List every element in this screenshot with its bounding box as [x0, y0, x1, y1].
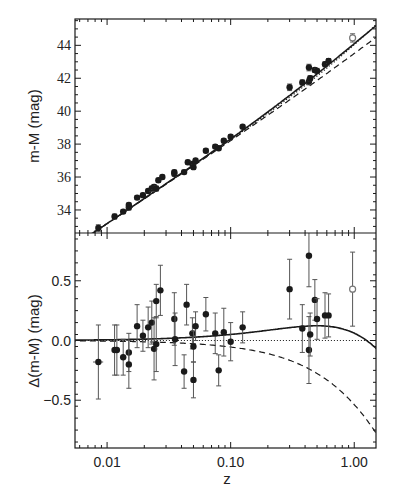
data-point — [227, 134, 233, 140]
data-point — [221, 329, 227, 335]
data-point — [134, 323, 140, 329]
data-point — [314, 68, 320, 74]
data-point — [212, 330, 218, 336]
data-point — [95, 359, 101, 365]
plot-frame — [75, 19, 376, 448]
open-data-point — [350, 35, 356, 41]
data-point — [153, 298, 159, 304]
data-point — [134, 194, 140, 200]
data-point — [239, 324, 245, 330]
data-point — [120, 208, 126, 214]
open-data-point — [350, 286, 356, 292]
y-tick-label: 0.0 — [52, 333, 72, 349]
decelerating-model-curve — [70, 341, 379, 438]
x-axis-label: z — [223, 470, 231, 487]
data-point — [299, 79, 305, 85]
data-point — [239, 124, 245, 130]
data-point — [286, 286, 292, 292]
data-point — [171, 316, 177, 322]
data-point — [153, 185, 159, 191]
data-point — [192, 157, 198, 163]
data-point — [159, 174, 165, 180]
y-tick-label: 44 — [57, 38, 71, 53]
data-point — [307, 331, 313, 337]
data-point — [140, 192, 146, 198]
data-point — [172, 336, 178, 342]
chart-svg: 343638404244−0.50.00.50.010.101.00zm-M (… — [0, 0, 396, 499]
upper-panel-hubble-diagram — [70, 22, 379, 249]
data-point — [307, 75, 313, 81]
data-point — [126, 361, 132, 367]
data-point — [183, 301, 189, 307]
data-point — [203, 147, 209, 153]
y-tick-label: 0.5 — [52, 273, 72, 289]
x-tick-label: 0.01 — [93, 454, 120, 470]
data-point — [153, 341, 159, 347]
data-point — [203, 311, 209, 317]
data-point — [181, 368, 187, 374]
data-point — [114, 347, 120, 353]
data-point — [325, 312, 331, 318]
data-point — [190, 164, 196, 170]
data-point — [215, 367, 221, 373]
data-point — [181, 169, 187, 175]
data-point — [171, 169, 177, 175]
lower-y-axis-label: Δ(m-M) (mag) — [25, 294, 42, 387]
data-point — [215, 145, 221, 151]
y-tick-label: −0.5 — [43, 392, 71, 408]
y-tick-label: 38 — [57, 137, 71, 152]
lower-panel-residuals — [70, 225, 379, 438]
data-point — [221, 138, 227, 144]
data-point — [111, 213, 117, 219]
y-tick-label: 42 — [57, 71, 71, 86]
data-point — [192, 323, 198, 329]
data-point — [140, 333, 146, 339]
x-tick-label: 0.10 — [217, 454, 244, 470]
data-point — [120, 354, 126, 360]
data-point — [286, 84, 292, 90]
data-point — [95, 225, 101, 231]
data-point — [299, 325, 305, 331]
x-tick-label: 1.00 — [341, 454, 368, 470]
data-point — [314, 316, 320, 322]
data-point — [157, 287, 163, 293]
data-point — [126, 202, 132, 208]
data-point — [306, 347, 312, 353]
y-tick-label: 40 — [57, 104, 71, 119]
data-point — [325, 58, 331, 64]
data-point — [306, 252, 312, 258]
data-point — [227, 338, 233, 344]
data-point — [190, 377, 196, 383]
upper-y-axis-label: m-M (mag) — [25, 89, 42, 162]
data-point — [190, 343, 196, 349]
y-tick-label: 36 — [57, 170, 71, 185]
data-point — [306, 64, 312, 70]
y-tick-label: 34 — [57, 203, 71, 218]
